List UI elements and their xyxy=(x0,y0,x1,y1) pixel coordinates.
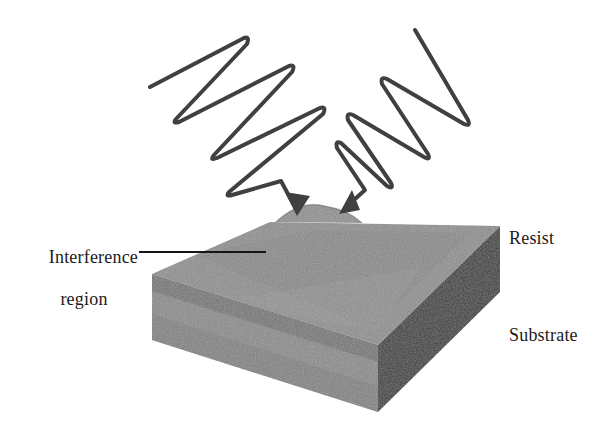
incident-beam-right xyxy=(337,30,469,214)
incident-beam-left xyxy=(150,38,324,216)
label-interference-line2: region xyxy=(28,289,140,310)
resist-substrate-slab xyxy=(152,205,500,412)
label-substrate: Substrate xyxy=(509,325,578,346)
incident-beam-left-path xyxy=(150,38,324,211)
incident-beam-right-path xyxy=(337,30,469,208)
label-resist: Resist xyxy=(509,228,554,249)
label-interference-region: Interference region xyxy=(28,226,140,352)
arrow-down-left-icon xyxy=(339,190,360,214)
label-interference-line1: Interference xyxy=(49,247,138,267)
diagram-canvas xyxy=(0,0,598,436)
figure-root: Interference region Resist Substrate xyxy=(0,0,598,436)
